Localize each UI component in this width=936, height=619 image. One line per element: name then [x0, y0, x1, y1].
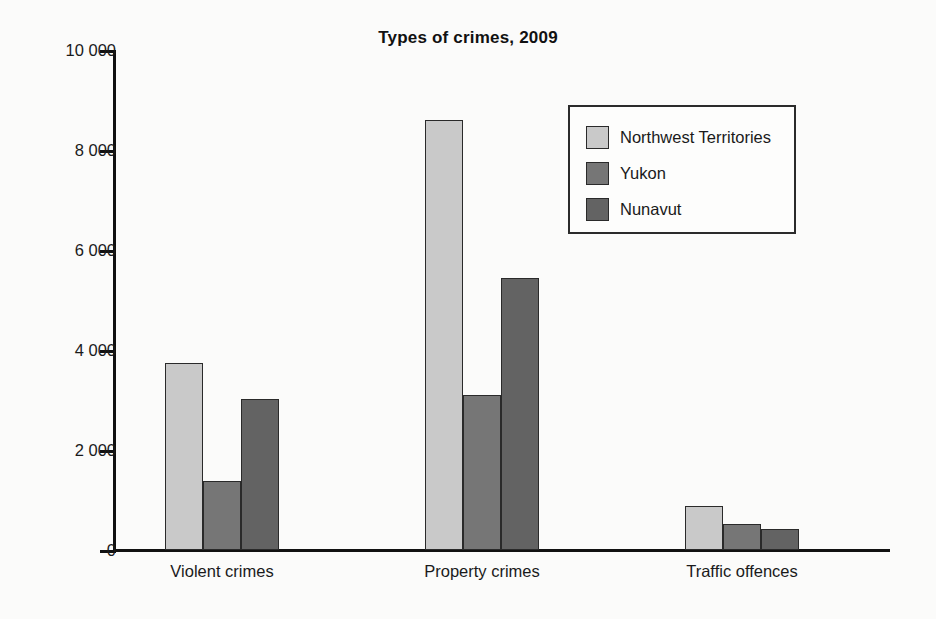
x-axis-category-label: Violent crimes [170, 562, 273, 581]
chart-figure: Types of crimes, 2009 02 0004 0006 0008 … [0, 0, 936, 619]
bar [203, 481, 241, 551]
y-tick-label: 0 [20, 541, 116, 560]
y-tick-label: 8 000 [20, 141, 116, 160]
y-tick-label: 4 000 [20, 341, 116, 360]
y-axis-line [113, 50, 116, 552]
bar [501, 278, 539, 550]
chart-legend: Northwest Territories Yukon Nunavut [568, 105, 796, 234]
bar [723, 524, 761, 550]
legend-item: Northwest Territories [586, 121, 794, 154]
bar [761, 529, 799, 550]
legend-swatch-icon [586, 162, 609, 185]
bar [165, 363, 203, 551]
bar [241, 399, 279, 551]
x-axis-category-label: Property crimes [424, 562, 540, 581]
legend-item-label: Northwest Territories [620, 128, 771, 147]
legend-swatch-icon [586, 198, 609, 221]
legend-swatch-icon [586, 126, 609, 149]
y-tick-label: 6 000 [20, 241, 116, 260]
plot-area: 02 0004 0006 0008 00010 000 Violent crim… [0, 0, 936, 619]
bar [685, 506, 723, 551]
x-axis-category-label: Traffic offences [686, 562, 798, 581]
y-tick-label: 10 000 [20, 41, 116, 60]
legend-item: Yukon [586, 157, 794, 190]
legend-item-label: Yukon [620, 164, 666, 183]
y-tick-label: 2 000 [20, 441, 116, 460]
bar [425, 120, 463, 550]
bar [463, 395, 501, 550]
legend-item-label: Nunavut [620, 200, 681, 219]
legend-item: Nunavut [586, 193, 794, 226]
